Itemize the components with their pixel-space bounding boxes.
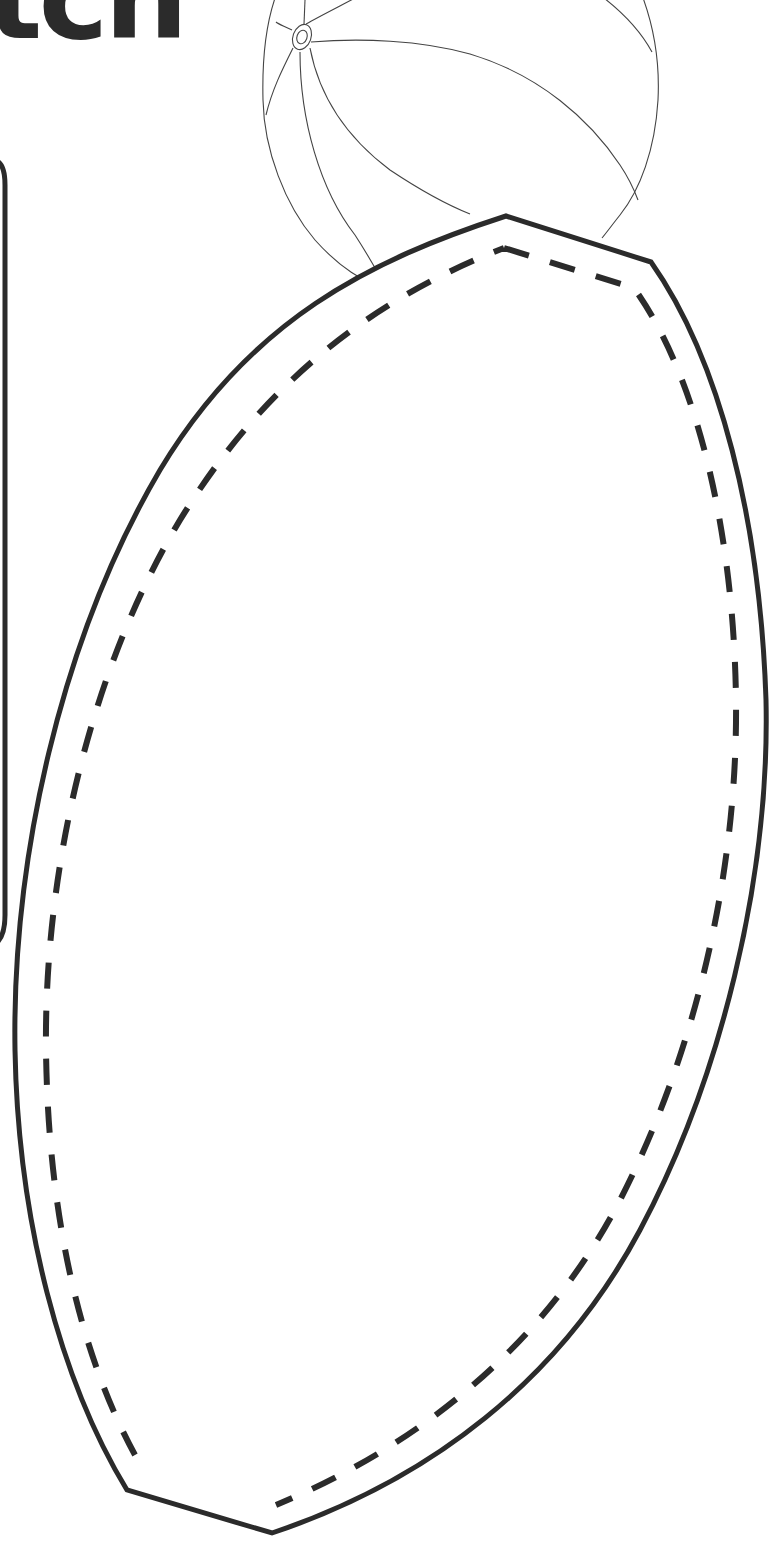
side-panel-border bbox=[0, 160, 5, 945]
template-artwork bbox=[0, 0, 782, 1565]
football-cut-outline bbox=[15, 216, 766, 1533]
